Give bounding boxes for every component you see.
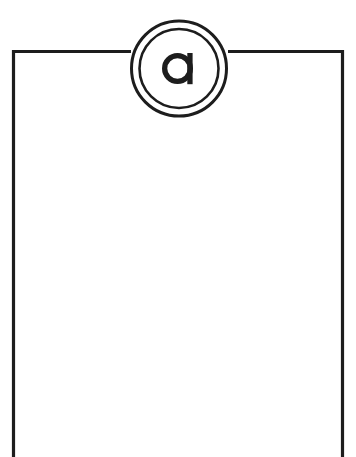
- callout-group: a: [132, 21, 227, 116]
- callout-letter-stem: [187, 53, 192, 84]
- figure-canvas: a: [0, 0, 356, 457]
- callout-disc-mask: [133, 23, 225, 115]
- line-drawing-figure: a: [0, 0, 356, 457]
